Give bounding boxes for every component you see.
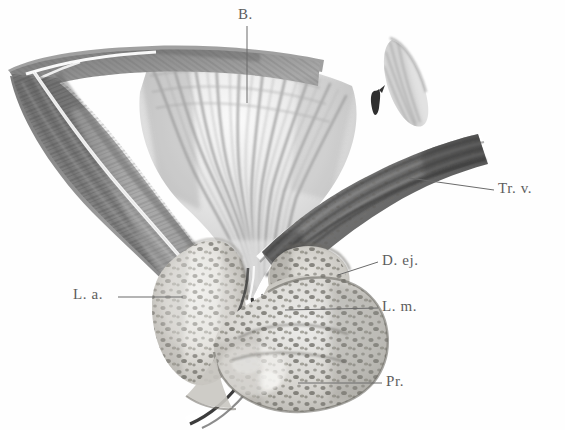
anatomy-illustration <box>0 0 565 430</box>
anatomical-plate: B. Tr. v. D. ej. L. a. L. m. Pr. <box>0 0 565 430</box>
label-lobus-medius: L. m. <box>382 298 417 315</box>
label-ductus-ejaculatorius: D. ej. <box>382 252 419 269</box>
label-prostata: Pr. <box>386 373 404 390</box>
label-trigonum-vesicae: Tr. v. <box>498 180 532 197</box>
label-bladder: B. <box>238 6 253 23</box>
label-lobus-anterior: L. a. <box>73 286 103 303</box>
